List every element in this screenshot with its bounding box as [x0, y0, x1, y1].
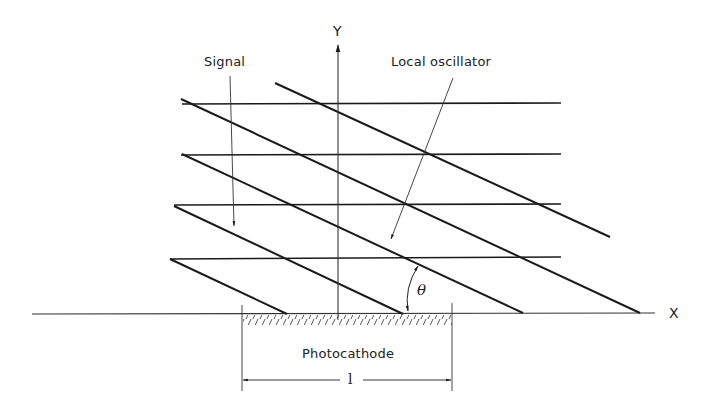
signal-wavefronts — [170, 103, 561, 259]
length-label: l — [348, 372, 352, 386]
photocathode-label: Photocathode — [302, 347, 394, 360]
x-axis — [32, 313, 655, 314]
signal-pointer-arrow — [230, 76, 234, 226]
signal-wavefront — [181, 154, 561, 155]
signal-wavefront — [174, 204, 561, 205]
theta-label: θ — [417, 283, 426, 298]
y-axis-label: Y — [333, 24, 342, 38]
signal-wavefront — [170, 257, 561, 259]
signal-label: Signal — [204, 55, 245, 68]
lo-wavefront — [174, 206, 403, 314]
x-axis-label: X — [669, 306, 679, 320]
local-oscillator-label: Local oscillator — [391, 55, 491, 68]
lo-wavefront — [170, 259, 287, 314]
lo-pointer-arrow — [391, 78, 453, 239]
signal-wavefront — [182, 103, 561, 104]
local-oscillator-wavefronts — [170, 83, 640, 314]
photocathode-hatch — [243, 315, 452, 325]
